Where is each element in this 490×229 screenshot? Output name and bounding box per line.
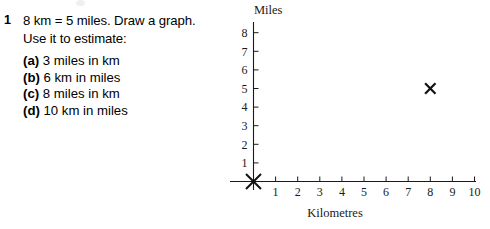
x-tick-label: 9 xyxy=(449,185,455,199)
x-tick-label: 3 xyxy=(317,185,323,199)
y-tick-label: 3 xyxy=(242,119,248,133)
question-part-b: (b) 6 km in miles xyxy=(23,70,228,87)
y-tick-label: 8 xyxy=(242,26,248,40)
y-axis-title: Miles xyxy=(254,3,283,17)
y-tick-label: 6 xyxy=(242,63,248,77)
question-part-d: (d) 10 km in miles xyxy=(23,103,228,120)
y-tick-label: 5 xyxy=(242,82,248,96)
part-text-d: 10 km in miles xyxy=(44,103,128,118)
question-part-a: (a) 3 miles in km xyxy=(23,53,228,70)
y-tick-label: 1 xyxy=(242,156,248,170)
question-line-2: Use it to estimate: xyxy=(23,30,228,48)
part-marker-c: (c) xyxy=(23,86,39,101)
question-parts-list: (a) 3 miles in km (b) 6 km in miles (c) … xyxy=(23,53,228,119)
x-tick-label: 7 xyxy=(405,185,411,199)
x-tick-label: 10 xyxy=(469,185,481,199)
data-point-markers xyxy=(246,83,436,189)
y-axis-ticks: 12345678 xyxy=(242,26,259,170)
question-body: 8 km = 5 miles. Draw a graph. Use it to … xyxy=(23,12,228,119)
part-text-c: 8 miles in km xyxy=(43,86,120,101)
x-tick-label: 8 xyxy=(427,185,433,199)
x-tick-label: 6 xyxy=(383,185,389,199)
y-tick-label: 2 xyxy=(242,138,248,152)
question-part-c: (c) 8 miles in km xyxy=(23,86,228,103)
x-axis-title: Kilometres xyxy=(307,206,363,220)
x-tick-label: 4 xyxy=(339,185,345,199)
part-text-b: 6 km in miles xyxy=(44,70,121,85)
x-tick-label: 1 xyxy=(273,185,279,199)
x-tick-label: 2 xyxy=(295,185,301,199)
question-number: 1 xyxy=(4,14,11,27)
worksheet-page: 1 8 km = 5 miles. Draw a graph. Use it t… xyxy=(0,0,490,229)
part-marker-a: (a) xyxy=(23,53,39,68)
y-tick-label: 4 xyxy=(242,100,248,114)
graph-svg: Miles Kilometres 12345678 12345678910 xyxy=(230,0,490,229)
x-tick-label: 5 xyxy=(361,185,367,199)
part-marker-d: (d) xyxy=(23,103,40,118)
data-point-marker xyxy=(425,83,435,93)
conversion-graph: Miles Kilometres 12345678 12345678910 xyxy=(230,0,490,229)
question-block: 1 8 km = 5 miles. Draw a graph. Use it t… xyxy=(0,0,230,229)
question-line-1: 8 km = 5 miles. Draw a graph. xyxy=(23,12,228,30)
x-axis-ticks: 12345678910 xyxy=(273,177,481,199)
y-tick-label: 7 xyxy=(242,45,248,59)
part-text-a: 3 miles in km xyxy=(43,53,120,68)
part-marker-b: (b) xyxy=(23,70,40,85)
